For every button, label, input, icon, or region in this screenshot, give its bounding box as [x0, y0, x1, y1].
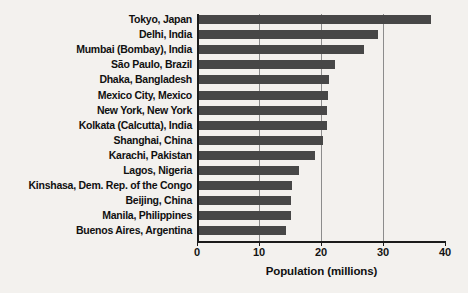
bar — [197, 181, 292, 190]
x-axis-title: Population (millions) — [197, 265, 446, 277]
bar-fill — [197, 30, 378, 39]
bar — [197, 60, 335, 69]
bar-fill — [197, 226, 286, 235]
bar — [197, 75, 329, 84]
category-label: Lagos, Nigeria — [0, 164, 192, 176]
category-label: Delhi, India — [0, 28, 192, 40]
bar-fill — [197, 196, 291, 205]
bar-fill — [197, 106, 327, 115]
x-tick-label: 0 — [194, 246, 200, 258]
category-label: Buenos Aires, Argentina — [0, 224, 192, 236]
bar-fill — [197, 136, 323, 145]
bar — [197, 91, 328, 100]
bar-chart: Tokyo, JapanDelhi, IndiaMumbai (Bombay),… — [0, 0, 468, 293]
category-label: New York, New York — [0, 104, 192, 116]
category-label: Shanghai, China — [0, 134, 192, 146]
x-tick-label: 40 — [439, 246, 451, 258]
x-tick-label: 10 — [253, 246, 265, 258]
bar-fill — [197, 75, 329, 84]
bar-fill — [197, 15, 431, 24]
bar-fill — [197, 166, 299, 175]
bar — [197, 151, 315, 160]
bar — [197, 45, 364, 54]
bar — [197, 30, 378, 39]
bar-fill — [197, 45, 364, 54]
bar — [197, 106, 327, 115]
category-label: Mumbai (Bombay), India — [0, 43, 192, 55]
bar — [197, 15, 431, 24]
bar-fill — [197, 91, 328, 100]
category-label: Dhaka, Bangladesh — [0, 73, 192, 85]
y-axis-line — [197, 14, 199, 242]
bar-fill — [197, 121, 327, 130]
plot-area — [197, 14, 445, 241]
bar-fill — [197, 151, 315, 160]
bar — [197, 136, 323, 145]
bar — [197, 166, 299, 175]
x-tick-label: 30 — [377, 246, 389, 258]
bar — [197, 121, 327, 130]
bar — [197, 226, 286, 235]
bar-fill — [197, 181, 292, 190]
category-label: Manila, Philippines — [0, 209, 192, 221]
category-label: Karachi, Pakistan — [0, 149, 192, 161]
category-label: Kolkata (Calcutta), India — [0, 119, 192, 131]
category-label: São Paulo, Brazil — [0, 58, 192, 70]
bar — [197, 211, 291, 220]
gridline-30 — [383, 14, 384, 241]
bar — [197, 196, 291, 205]
category-label: Kinshasa, Dem. Rep. of the Congo — [0, 179, 192, 191]
bar-fill — [197, 60, 335, 69]
category-label: Mexico City, Mexico — [0, 89, 192, 101]
category-label: Tokyo, Japan — [0, 13, 192, 25]
category-label: Beijing, China — [0, 194, 192, 206]
x-tick-label: 20 — [315, 246, 327, 258]
bar-fill — [197, 211, 291, 220]
